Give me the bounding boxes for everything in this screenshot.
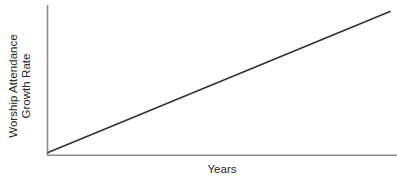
trend-line (48, 12, 390, 153)
chart-figure: Worship Attendance Growth Rate Years (0, 0, 397, 176)
x-axis-label: Years (47, 163, 397, 175)
chart-plot-area (0, 0, 397, 176)
y-axis-label-line-1: Worship Attendance (7, 34, 20, 138)
y-axis-label-line-2: Growth Rate (20, 34, 33, 138)
y-axis-label-text: Worship Attendance Growth Rate (7, 34, 33, 138)
y-axis-label: Worship Attendance Growth Rate (0, 0, 40, 176)
